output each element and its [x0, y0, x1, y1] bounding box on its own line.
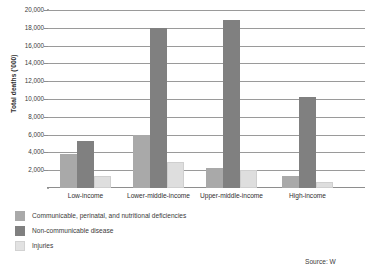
- bar: [94, 176, 111, 188]
- bar: [223, 20, 240, 188]
- y-axis-tick-label: 18,000: [4, 24, 44, 31]
- y-axis-tick-mark: [44, 170, 48, 171]
- y-axis-tick-label: 2,000: [4, 166, 44, 173]
- bar: [282, 176, 299, 188]
- y-axis-tick-label: 12,000: [4, 77, 44, 84]
- bar: [150, 28, 167, 188]
- legend-label: Non-communicable disease: [32, 227, 113, 234]
- legend-label: Injuries: [32, 242, 53, 249]
- legend: Communicable, perinatal, and nutritional…: [15, 208, 186, 253]
- bar: [60, 154, 77, 188]
- y-axis-tick-label: 8,000: [4, 113, 44, 120]
- y-axis-tick-mark: [44, 28, 48, 29]
- legend-swatch: [15, 241, 25, 251]
- plot-area: [47, 10, 365, 188]
- y-axis-tick-label: 4,000: [4, 148, 44, 155]
- legend-item: Non-communicable disease: [15, 223, 186, 238]
- bar-group: [282, 10, 333, 188]
- bar-group: [206, 10, 257, 188]
- y-axis-tick-mark: [44, 135, 48, 136]
- legend-item: Communicable, perinatal, and nutritional…: [15, 208, 186, 223]
- y-axis-tick-mark: [44, 117, 48, 118]
- bar: [240, 170, 257, 188]
- bar: [133, 135, 150, 188]
- y-axis-tick-label: 10,000: [4, 95, 44, 102]
- legend-label: Communicable, perinatal, and nutritional…: [32, 212, 186, 219]
- y-axis-tick-label: 6,000: [4, 131, 44, 138]
- y-axis-tick-label: 14,000: [4, 59, 44, 66]
- bar: [206, 168, 223, 188]
- bar: [77, 141, 94, 188]
- y-axis-tick-mark: [44, 99, 48, 100]
- y-axis-tick-mark: [44, 10, 48, 11]
- x-axis-category-label: High-income: [260, 192, 355, 199]
- bar-chart: Total deaths ('000) 20,00018,00016,00014…: [0, 0, 368, 269]
- bar: [167, 162, 184, 188]
- bar-group: [60, 10, 111, 188]
- legend-item: Injuries: [15, 238, 186, 253]
- y-axis-tick-mark: [44, 46, 48, 47]
- bar-group: [133, 10, 184, 188]
- y-axis-tick-mark: [44, 63, 48, 64]
- y-axis-tick-mark: [44, 81, 48, 82]
- source-note: Source: W: [305, 258, 368, 265]
- y-axis-tick-label: 16,000: [4, 42, 44, 49]
- legend-swatch: [15, 226, 25, 236]
- y-axis-tick-label: 20,000: [4, 6, 44, 13]
- legend-swatch: [15, 211, 25, 221]
- bar: [316, 182, 333, 188]
- bar: [299, 97, 316, 188]
- y-axis-tick-mark: [44, 152, 48, 153]
